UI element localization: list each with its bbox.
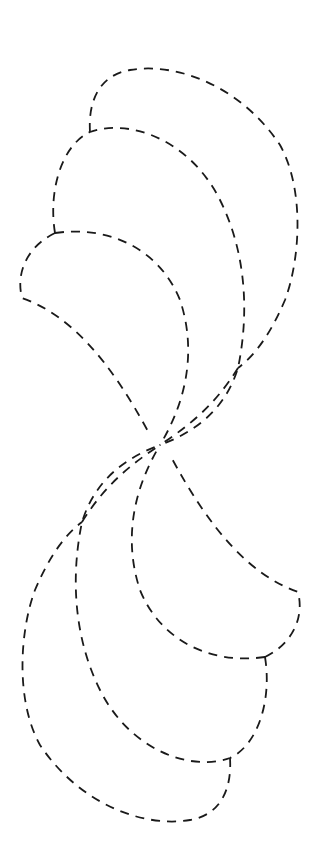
lower-small-petal-outline (132, 445, 300, 658)
lower-large-petal-outline (23, 522, 231, 822)
petal-drawing (0, 0, 325, 861)
lower-petal-group (23, 445, 300, 822)
upper-large-petal-outline (90, 68, 298, 368)
lower-outer-tail (82, 445, 160, 522)
upper-outer-tail (160, 368, 238, 445)
upper-small-petal-outline (20, 232, 188, 445)
upper-petal-group (20, 68, 297, 445)
